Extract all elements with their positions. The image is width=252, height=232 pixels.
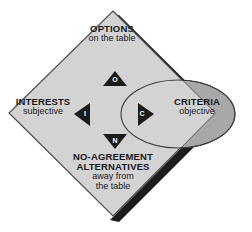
label-criteria-subtitle: objective xyxy=(158,107,236,117)
triangle-letter-no-agreement: N xyxy=(110,137,120,144)
label-options-subtitle: on the table xyxy=(62,34,162,44)
label-options: OPTIONS on the table xyxy=(62,24,162,44)
label-interests-subtitle: subjective xyxy=(4,107,82,117)
triangle-letter-options: O xyxy=(110,76,120,83)
triangle-letter-criteria: C xyxy=(137,110,147,117)
diagram-canvas: O N I C OPTIONS on the table INTERESTS s… xyxy=(0,0,252,232)
label-interests: INTERESTS subjective xyxy=(4,97,82,117)
label-naa-subtitle-line2: the table xyxy=(48,182,178,192)
label-no-agreement-alternatives: NO-AGREEMENT ALTERNATIVES away from the … xyxy=(48,152,178,192)
label-criteria: CRITERIA objective xyxy=(158,97,236,117)
